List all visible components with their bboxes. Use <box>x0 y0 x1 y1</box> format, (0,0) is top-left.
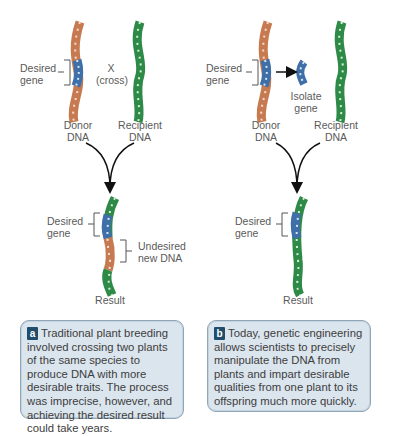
isolate-gene-label: Isolate gene <box>286 90 326 114</box>
arrow-down-icon <box>110 143 134 188</box>
desired-gene-result-label-b: Desired gene <box>235 215 271 239</box>
caption-text-a: Traditional plant breeding involved cros… <box>27 327 172 434</box>
caption-badge-b: b <box>214 327 225 340</box>
desired-gene-result-label-a: Desired gene <box>47 215 83 239</box>
result-dna-strand-b <box>295 198 304 295</box>
result-label-b: Result <box>278 294 318 306</box>
donor-dna-label-a: Donor DNA <box>58 119 98 143</box>
donor-dna-strand-b <box>261 22 268 122</box>
caption-box-a: aTraditional plant breeding involved cro… <box>20 320 184 419</box>
bracket-icon <box>58 60 70 85</box>
recipient-dna-label-b: Recipient DNA <box>308 119 364 143</box>
desired-gene-label-a: Desired gene <box>20 62 56 86</box>
arrow-down-icon <box>297 143 320 188</box>
cross-symbol: X <box>96 62 126 74</box>
result-dna-strand-a <box>106 198 115 295</box>
cross-label: (cross) <box>94 74 130 86</box>
donor-dna-label-b: Donor DNA <box>246 119 286 143</box>
result-label-a: Result <box>90 294 130 306</box>
recipient-dna-strand-a <box>137 22 141 122</box>
donor-dna-strand-a <box>73 22 80 122</box>
caption-text-b: Today, genetic engineering allows scient… <box>214 327 362 407</box>
recipient-dna-strand-b <box>339 22 343 122</box>
caption-badge-a: a <box>27 327 38 340</box>
caption-box-b: bToday, genetic engineering allows scien… <box>207 320 371 412</box>
isolated-gene-strand <box>300 62 304 84</box>
undesired-dna-label: Undesired new DNA <box>138 240 186 264</box>
recipient-dna-label-a: Recipient DNA <box>112 119 168 143</box>
desired-gene-label-b: Desired gene <box>206 62 242 86</box>
